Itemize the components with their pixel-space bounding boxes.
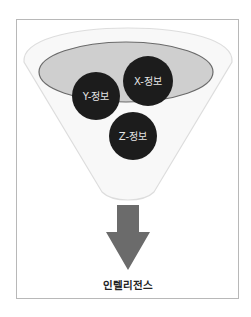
circle-x-label: X-정보: [134, 76, 162, 87]
circle-x-info: X-정보: [123, 56, 173, 106]
down-arrow-icon: [106, 205, 150, 270]
circle-z-label: Z-정보: [119, 131, 147, 142]
funnel-diagram: X-정보 Y-정보 Z-정보 인텔리전스: [0, 0, 251, 317]
output-label: 인텔리전스: [103, 279, 153, 291]
circle-z-info: Z-정보: [109, 112, 157, 160]
circle-y-label: Y-정보: [82, 91, 110, 102]
circle-y-info: Y-정보: [72, 72, 120, 120]
